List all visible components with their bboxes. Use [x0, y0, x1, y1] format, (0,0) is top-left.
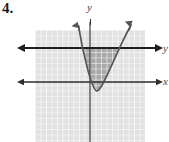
- y-axis-label: y: [87, 2, 92, 13]
- parabola-inequality-graph: y y x: [0, 0, 169, 142]
- x-axis-right-label: x: [163, 76, 168, 87]
- graph-svg: [0, 0, 169, 142]
- figure-container: 4.: [0, 0, 169, 142]
- boundary-line-right-label: y: [163, 43, 168, 54]
